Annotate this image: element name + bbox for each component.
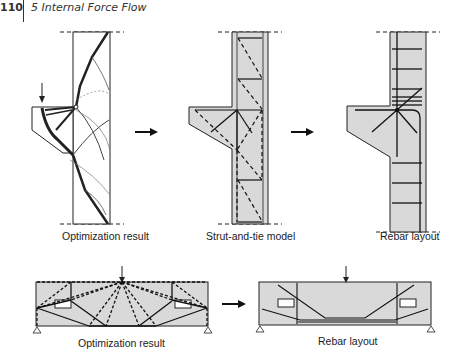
figure-canvas [0,0,457,358]
caption-bottom-optimization: Optimization result [78,337,165,349]
process-arrow-2 [291,128,314,136]
caption-bottom-rebar: Rebar layout [318,335,378,347]
caption-top-optimization: Optimization result [62,230,149,242]
top-strut-and-tie-diagram [189,32,282,224]
bottom-optimization-diagram [33,266,212,333]
process-arrow-1 [135,128,158,136]
caption-top-strut-and-tie: Strut-and-tie model [206,230,295,242]
caption-top-rebar: Rebar layout [380,230,440,242]
top-rebar-diagram [347,32,440,232]
bottom-rebar-diagram [256,266,435,332]
top-optimization-diagram [32,32,124,224]
process-arrow-3 [222,300,246,308]
